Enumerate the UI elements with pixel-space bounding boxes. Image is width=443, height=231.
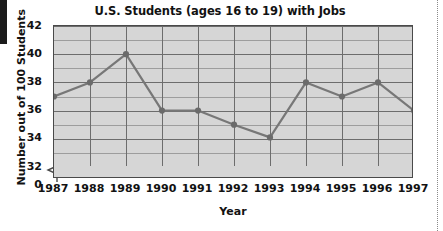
y-tick-label-38: 38 (0, 76, 42, 87)
data-point-1992 (231, 122, 237, 128)
data-point-1995 (339, 93, 345, 99)
y-tick-label-40: 40 (0, 48, 42, 59)
data-point-1989 (123, 51, 129, 57)
data-point-1993 (267, 134, 273, 140)
y-tick-label-32: 32 (0, 161, 42, 172)
y-tick-label-36: 36 (0, 104, 42, 115)
y-tick-label-42: 42 (0, 20, 42, 31)
plot-area (53, 25, 413, 178)
data-point-1996 (375, 79, 381, 85)
data-point-1991 (195, 108, 201, 114)
series-markers (54, 51, 413, 140)
data-point-1990 (159, 108, 165, 114)
data-point-1994 (303, 79, 309, 85)
data-point-1988 (87, 79, 93, 85)
y-tick-label-34: 34 (0, 132, 42, 143)
data-series-line (54, 26, 413, 178)
line-chart-figure: U.S. Students (ages 16 to 19) with Jobs … (0, 0, 443, 231)
x-axis-title: Year (53, 205, 413, 218)
chart-title: U.S. Students (ages 16 to 19) with Jobs (40, 4, 400, 18)
y-axis-zero-band (53, 166, 413, 178)
x-tick-label-1997: 1997 (391, 182, 435, 195)
